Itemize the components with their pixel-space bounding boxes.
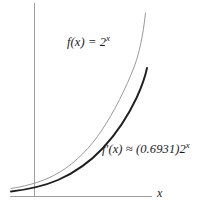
figure-canvas: f(x) = 2x f′(x) ≈ (0.6931)2x x	[0, 0, 211, 210]
curve-label-f-prime-text: f′(x) ≈ (0.6931)2	[102, 142, 186, 156]
curve-label-f: f(x) = 2x	[67, 34, 110, 49]
curve-label-f-exponent: x	[106, 33, 110, 43]
x-axis-label: x	[157, 187, 162, 199]
curve-label-f-prime-exponent: x	[186, 140, 190, 150]
curve-label-f-text: f(x) = 2	[67, 35, 106, 49]
curve-label-f-prime: f′(x) ≈ (0.6931)2x	[102, 141, 190, 156]
curve-f-prime	[11, 68, 147, 192]
graph-plot-area	[0, 0, 211, 210]
